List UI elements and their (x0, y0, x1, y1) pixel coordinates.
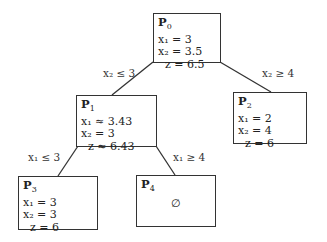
node-p3: P3 x₁ = 3 x₂ = 3 z = 6 (18, 176, 98, 230)
edge-label-p1-p3: x₁ ≤ 3 (28, 151, 60, 163)
node-title: P4 (141, 178, 211, 196)
edge-label-p1-p4: x₁ ≥ 4 (173, 151, 205, 163)
node-title: P0 (158, 16, 216, 34)
edge-label-p0-p1: x₂ ≤ 3 (103, 67, 135, 79)
node-line-x2: x₂ = 3 (23, 209, 93, 222)
edge-p1-p3 (58, 146, 78, 176)
node-line-z: z = 6.5 (158, 59, 216, 72)
node-title: P3 (23, 179, 93, 197)
empty-set-symbol: ∅ (137, 198, 215, 211)
node-p1: P1 x₁ ≈ 3.43 x₂ = 3 z ≈ 6.43 (76, 95, 157, 147)
node-line-z: z = 6 (23, 222, 93, 235)
edge-label-p0-p2: x₂ ≥ 4 (262, 67, 294, 79)
node-p2: P2 x₁ = 2 x₂ = 4 z = 6 (233, 92, 307, 144)
node-line-z: z ≈ 6.43 (81, 141, 152, 154)
node-p4: P4 ∅ (136, 175, 216, 227)
node-line-z: z = 6 (238, 138, 302, 151)
node-title: P1 (81, 98, 152, 116)
node-line-x2: x₂ = 4 (238, 125, 302, 138)
node-line-x2: x₂ = 3.5 (158, 46, 216, 59)
node-line-x2: x₂ = 3 (81, 128, 152, 141)
node-title: P2 (238, 95, 302, 113)
node-p0: P0 x₁ = 3 x₂ = 3.5 z = 6.5 (153, 13, 221, 63)
